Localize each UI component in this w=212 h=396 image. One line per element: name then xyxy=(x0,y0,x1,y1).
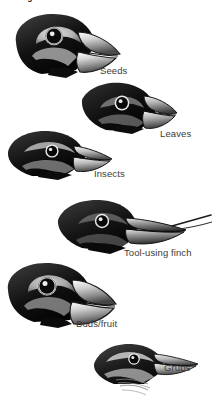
bird-head-grubs xyxy=(92,338,212,396)
figure-caption-top: eating different foods xyxy=(8,0,204,2)
bird-label-tool-using-finch: Tool-using finch xyxy=(124,247,192,258)
bird-label-insects: Insects xyxy=(94,168,125,179)
bird-label-buds-fruit: Buds/fruit xyxy=(76,318,117,329)
darwin-finch-beak-figure: eating different foods xyxy=(0,0,212,396)
bird-label-seeds: Seeds xyxy=(100,65,127,76)
bird-label-grubs: Grubs xyxy=(164,362,190,373)
bird-label-leaves: Leaves xyxy=(160,128,191,139)
